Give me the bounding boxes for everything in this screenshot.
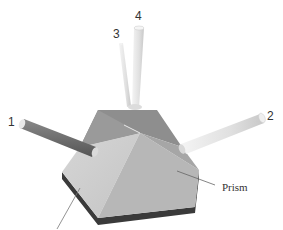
rod-3 bbox=[119, 43, 131, 107]
rod-4 bbox=[128, 26, 144, 110]
prism bbox=[62, 110, 199, 225]
label-prism: Prism bbox=[222, 181, 248, 193]
prism-diagram: 1 2 3 4 Prism bbox=[0, 0, 283, 230]
label-rod-2: 2 bbox=[267, 109, 274, 123]
label-rod-3: 3 bbox=[113, 27, 120, 41]
label-rod-4: 4 bbox=[135, 9, 142, 23]
diagram-svg: 1 2 3 4 Prism bbox=[0, 0, 283, 230]
label-rod-1: 1 bbox=[8, 115, 15, 129]
rod-2 bbox=[177, 112, 266, 155]
bottom-leader-line bbox=[57, 188, 80, 229]
